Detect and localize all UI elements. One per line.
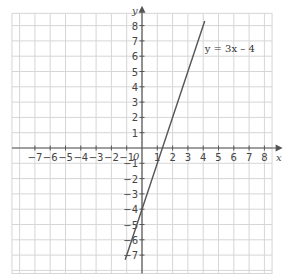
y-tick-label: −4 — [123, 204, 138, 215]
x-tick-label: −6 — [43, 152, 58, 163]
x-tick-label: 4 — [200, 152, 206, 163]
x-tick-label: −5 — [58, 152, 73, 163]
x-axis-label: x — [276, 152, 282, 163]
x-tick-label: 7 — [246, 152, 252, 163]
x-tick-label: 5 — [215, 152, 221, 163]
x-tick-label: −3 — [89, 152, 104, 163]
x-tick-label: 6 — [231, 152, 237, 163]
y-axis-arrow-icon — [139, 6, 146, 13]
y-tick-label: 6 — [132, 51, 138, 62]
equation-label: y = 3x – 4 — [204, 43, 255, 54]
origin-label: 0 — [133, 151, 140, 162]
y-axis-label: y — [131, 5, 138, 16]
graph: −7−6−5−4−3−2−112345678−7−6−5−4−3−2−11234… — [0, 0, 290, 278]
x-tick-label: −2 — [104, 152, 119, 163]
x-tick-label: 8 — [261, 152, 267, 163]
y-tick-label: 8 — [132, 21, 138, 32]
y-tick-label: 2 — [132, 112, 138, 123]
y-tick-label: −3 — [123, 189, 138, 200]
y-tick-label: 3 — [132, 97, 138, 108]
x-axis-arrow-icon — [276, 145, 283, 152]
y-tick-label: 7 — [132, 36, 138, 47]
y-tick-label: 5 — [132, 67, 138, 78]
y-tick-label: 1 — [132, 128, 138, 139]
y-tick-label: 4 — [132, 82, 138, 93]
x-tick-label: 2 — [169, 152, 175, 163]
x-tick-label: −7 — [28, 152, 43, 163]
y-tick-label: −2 — [123, 174, 138, 185]
x-tick-label: 3 — [185, 152, 191, 163]
x-tick-label: −4 — [73, 152, 88, 163]
